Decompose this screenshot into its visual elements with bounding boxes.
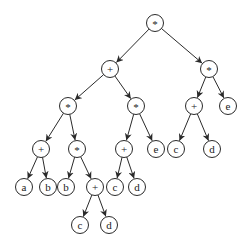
tree-node: * — [201, 61, 218, 78]
expression-tree-diagram: *+***+e+*+ecdabb+cdcd — [0, 0, 250, 247]
node-label: + — [38, 143, 44, 155]
tree-node: b — [40, 179, 57, 196]
node-label: + — [191, 100, 197, 112]
node-label: + — [121, 143, 127, 155]
edge-arrow — [213, 77, 224, 98]
edge-arrow — [83, 195, 92, 217]
node-label: b — [45, 181, 51, 193]
edge-arrow — [140, 114, 153, 141]
tree-node: * — [128, 98, 145, 115]
node-label: * — [65, 101, 71, 113]
edge-arrow — [127, 157, 134, 178]
node-label: d — [106, 219, 112, 231]
edge-arrow — [126, 114, 133, 140]
node-label: * — [133, 101, 139, 113]
node-label: a — [22, 181, 27, 193]
edge-arrow — [75, 75, 104, 100]
edge-arrow — [28, 157, 38, 179]
edge-arrow — [115, 76, 131, 99]
edge-arrow — [69, 157, 75, 178]
node-label: d — [209, 143, 215, 155]
tree-node: e — [220, 98, 237, 115]
tree-node: c — [168, 141, 185, 158]
tree-node: d — [129, 179, 146, 196]
node-label: * — [206, 64, 212, 76]
tree-node: b — [58, 179, 75, 196]
tree-node: c — [72, 217, 89, 234]
edge-arrow — [179, 114, 190, 141]
edge-arrow — [197, 77, 205, 98]
tree-node: d — [204, 141, 221, 158]
node-label: + — [92, 181, 98, 193]
tree-node: c — [107, 179, 124, 196]
tree-node: + — [116, 141, 133, 158]
node-label: c — [113, 181, 118, 193]
node-label: e — [154, 143, 159, 155]
node-label: e — [226, 100, 231, 112]
edge-arrow — [43, 157, 47, 178]
tree-node: d — [101, 217, 118, 234]
tree-node: + — [87, 179, 104, 196]
tree-node: + — [186, 98, 203, 115]
tree-node: * — [60, 98, 77, 115]
node-label: d — [134, 181, 140, 193]
tree-node: + — [102, 61, 119, 78]
edge-arrow — [117, 157, 122, 178]
node-label: c — [174, 143, 179, 155]
edge-arrow — [161, 29, 202, 64]
tree-svg: *+***+e+*+ecdabb+cdcd — [0, 0, 250, 247]
edge-arrow — [116, 29, 149, 62]
nodes-group: *+***+e+*+ecdabb+cdcd — [16, 15, 237, 234]
node-label: + — [107, 63, 113, 75]
tree-node: + — [33, 141, 50, 158]
tree-node: * — [147, 15, 164, 32]
tree-node: * — [69, 141, 86, 158]
edge-arrow — [197, 114, 208, 141]
edges-group — [28, 29, 224, 217]
edge-arrow — [46, 113, 64, 141]
node-label: b — [63, 181, 69, 193]
node-label: * — [74, 144, 80, 156]
node-label: c — [78, 219, 83, 231]
edge-arrow — [81, 157, 92, 179]
tree-node: e — [148, 141, 165, 158]
node-label: * — [152, 18, 158, 30]
edge-arrow — [98, 195, 106, 217]
tree-node: a — [16, 179, 33, 196]
edge-arrow — [70, 114, 75, 140]
